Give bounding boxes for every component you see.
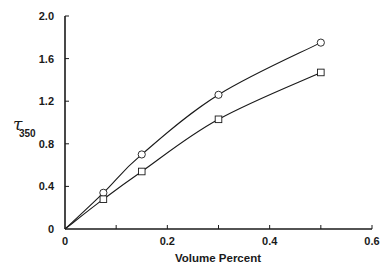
x-tick-label: 0.6 [364, 235, 379, 247]
y-tick-label: 0.4 [39, 180, 55, 192]
y-axis-title-subscript: 350 [19, 128, 36, 139]
y-axis-title: τ 350 [13, 114, 36, 139]
circle-marker-icon [138, 151, 145, 158]
circle-marker-icon [317, 39, 324, 46]
chart: 00.40.81.21.62.0 00.20.40.6 Volume Perce… [0, 0, 390, 274]
x-tick-label: 0.4 [262, 235, 278, 247]
y-tick-label: 0 [48, 223, 54, 235]
square-marker-icon [318, 69, 325, 76]
square-marker-icon [215, 116, 222, 123]
circle-marker-icon [100, 189, 107, 196]
square-marker-icon [138, 168, 145, 175]
y-tick-label: 1.2 [39, 95, 54, 107]
y-tick-label: 2.0 [39, 10, 54, 22]
x-tick-label: 0.2 [160, 235, 175, 247]
y-tick-label: 1.6 [39, 53, 54, 65]
x-tick-label: 0 [62, 235, 68, 247]
curve-squares [65, 72, 321, 229]
circle-marker-icon [215, 91, 222, 98]
square-marker-icon [100, 196, 107, 203]
plot-markers [100, 39, 325, 202]
x-axis-title: Volume Percent [175, 252, 261, 264]
y-tick-label: 0.8 [39, 138, 54, 150]
